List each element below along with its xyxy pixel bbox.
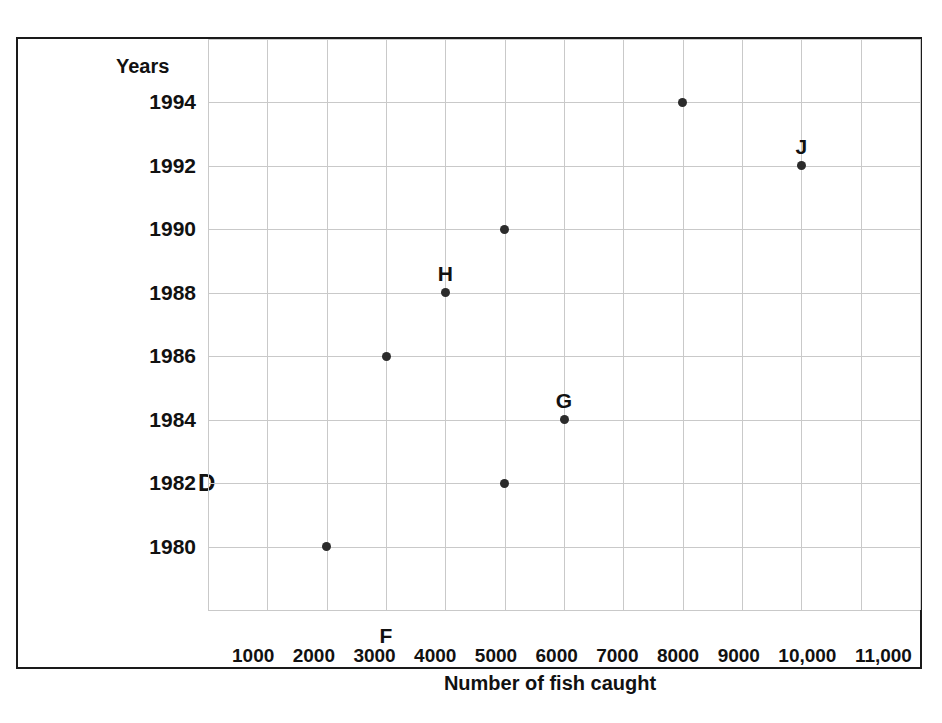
x-tick-label: 11,000 xyxy=(855,645,912,667)
gridline-horizontal xyxy=(208,547,920,548)
x-axis-tick-labels: 10002000300040005000600070008000900010,0… xyxy=(232,645,912,667)
annotation-label-g: G xyxy=(556,390,572,411)
gridline-horizontal xyxy=(208,293,920,294)
gridline-vertical xyxy=(861,39,862,610)
x-tick-label: 1000 xyxy=(232,645,274,667)
annotation-label-f: F xyxy=(380,625,393,646)
annotation-label-h: H xyxy=(438,263,453,284)
gridline-vertical xyxy=(683,39,684,610)
data-point xyxy=(500,479,509,488)
x-tick-label: 10,000 xyxy=(778,645,836,667)
gridline-vertical xyxy=(920,39,921,610)
y-tick-label: 1984 xyxy=(149,408,196,432)
gridline-vertical xyxy=(208,39,209,610)
data-point xyxy=(797,161,806,170)
x-tick-label: 2000 xyxy=(293,645,335,667)
data-point xyxy=(678,98,687,107)
gridline-horizontal xyxy=(208,166,920,167)
x-tick-label: 4000 xyxy=(414,645,456,667)
x-axis-title-wrap: Number of fish caught xyxy=(0,672,942,695)
gridline-vertical xyxy=(267,39,268,610)
x-tick-label: 6000 xyxy=(536,645,578,667)
y-tick-label: 1986 xyxy=(149,344,196,368)
gridline-vertical xyxy=(801,39,802,610)
gridline-vertical xyxy=(623,39,624,610)
gridline-vertical xyxy=(505,39,506,610)
y-tick-label: 1994 xyxy=(149,90,196,114)
x-axis-title: Number of fish caught xyxy=(444,672,656,695)
gridline-horizontal xyxy=(208,483,920,484)
data-point xyxy=(560,415,569,424)
gridline-horizontal xyxy=(208,610,920,611)
data-point xyxy=(500,225,509,234)
x-tick-label: 9000 xyxy=(718,645,760,667)
plot-area: GHJ xyxy=(208,39,920,610)
x-tick-label: 8000 xyxy=(657,645,699,667)
gridline-horizontal xyxy=(208,39,920,40)
y-tick-label: 1992 xyxy=(149,154,196,178)
gridline-vertical xyxy=(742,39,743,610)
gridline-vertical xyxy=(386,39,387,610)
y-axis-tick-labels: 19941992199019881986198419821980 xyxy=(0,0,196,723)
y-tick-label: 1980 xyxy=(149,535,196,559)
data-point xyxy=(322,542,331,551)
gridline-horizontal xyxy=(208,102,920,103)
gridline-horizontal xyxy=(208,356,920,357)
data-point xyxy=(441,288,450,297)
annotation-label-j: J xyxy=(795,136,807,157)
y-tick-label: 1988 xyxy=(149,281,196,305)
x-tick-label: 5000 xyxy=(475,645,517,667)
y-tick-label: 1990 xyxy=(149,217,196,241)
x-tick-label: 3000 xyxy=(353,645,395,667)
y-tick-label: 1982 xyxy=(149,471,196,495)
gridline-vertical xyxy=(564,39,565,610)
gridline-vertical xyxy=(445,39,446,610)
gridline-horizontal xyxy=(208,229,920,230)
gridline-vertical xyxy=(327,39,328,610)
data-point xyxy=(382,352,391,361)
x-tick-label: 7000 xyxy=(596,645,638,667)
